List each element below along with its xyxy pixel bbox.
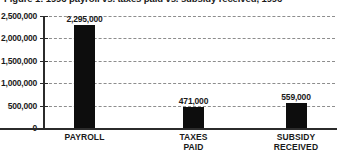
- bar-value-label: 2,295,000: [45, 14, 125, 24]
- bar: [74, 25, 95, 128]
- bar-chart: Figure 1: 1996 payroll vs. taxes paid vs…: [0, 0, 337, 160]
- y-axis-tick-label: 1,500,000: [0, 56, 37, 66]
- x-axis-category-label: SUBSIDY RECEIVED: [251, 132, 337, 152]
- bar-value-label: 559,000: [256, 92, 336, 102]
- y-axis-line: [43, 16, 45, 129]
- bar: [183, 107, 204, 128]
- y-axis-tick-label: 2,500,000: [0, 11, 37, 21]
- x-axis-category-label: PAYROLL: [40, 132, 130, 142]
- y-axis-tick-label: 1,000,000: [0, 78, 37, 88]
- x-axis-category-label: TAXES PAID: [149, 132, 239, 152]
- y-axis-tick-label: 500,000: [0, 101, 37, 111]
- y-axis-tick-label: 2,000,000: [0, 33, 37, 43]
- bar-value-label: 471,000: [154, 96, 234, 106]
- x-axis-line: [0, 128, 337, 130]
- bar: [286, 103, 307, 128]
- chart-title: Figure 1: 1996 payroll vs. taxes paid vs…: [4, 0, 337, 4]
